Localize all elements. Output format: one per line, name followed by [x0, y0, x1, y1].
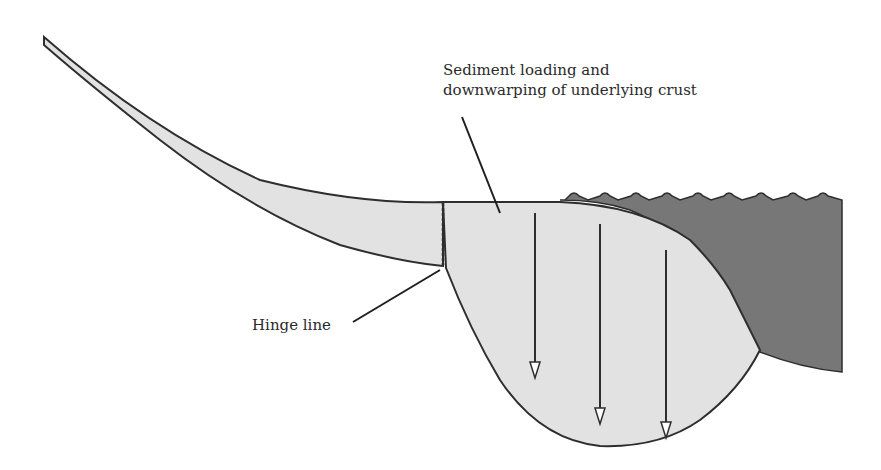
sediment-label-line-2: downwarping of underlying crust: [443, 80, 697, 100]
sediment-loading-label: Sediment loading and downwarping of unde…: [443, 60, 697, 100]
sediment-loading-diagram: [0, 0, 881, 470]
hinge-line-label: Hinge line: [252, 315, 331, 335]
shelf-sediment-wedge: [44, 37, 443, 266]
sediment-leader-line: [462, 117, 500, 213]
sediment-label-line-1: Sediment loading and: [443, 60, 697, 80]
hinge-leader-line: [353, 270, 440, 322]
